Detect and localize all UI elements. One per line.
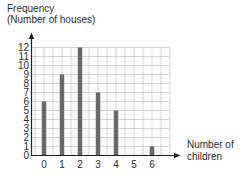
x-tick-label: 4: [113, 159, 119, 170]
x-tick-label: 3: [95, 159, 101, 170]
bar-0: [42, 102, 47, 156]
y-axis-arrow-icon: [29, 33, 35, 40]
x-axis-title-line2: children: [187, 151, 234, 163]
bar-4: [114, 111, 119, 156]
x-axis-title-line1: Number of: [187, 139, 234, 151]
y-axis-title-line1: Frequency: [7, 3, 95, 14]
bar-2: [78, 48, 83, 156]
x-tick-label: 5: [131, 159, 137, 170]
x-axis-arrow-icon: [174, 153, 181, 159]
y-tick-label: 12: [18, 42, 30, 53]
frequency-bar-chart: Frequency (Number of houses) 01234567891…: [0, 0, 240, 176]
x-tick-label: 0: [41, 159, 47, 170]
bar-3: [96, 93, 101, 156]
x-tick-label: 2: [77, 159, 83, 170]
y-axis-title-line2: (Number of houses): [7, 14, 95, 25]
x-tick-label: 1: [59, 159, 65, 170]
x-tick-label: 6: [149, 159, 155, 170]
x-axis-title: Number of children: [187, 139, 234, 162]
y-axis-title: Frequency (Number of houses): [7, 3, 95, 25]
bar-6: [150, 147, 155, 156]
bar-1: [60, 75, 65, 156]
